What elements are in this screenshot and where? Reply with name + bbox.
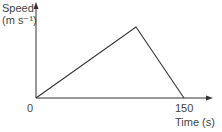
y-axis-arrow-icon: [34, 2, 39, 9]
x-axis-arrow-icon: [206, 96, 213, 101]
y-axis-label-line1: Speed: [2, 2, 34, 14]
x-axis-label: Time (s): [175, 116, 215, 128]
x-tick-origin: 0: [27, 102, 33, 114]
x-tick-150: 150: [175, 102, 193, 114]
speed-line: [36, 27, 184, 98]
y-axis-label-line2: (m s⁻¹): [2, 14, 37, 26]
